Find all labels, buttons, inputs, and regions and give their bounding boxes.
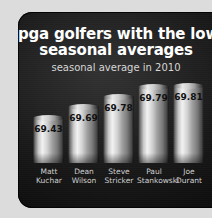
chart-image: pga golfers with the lowest seasonal ave… [0, 0, 212, 218]
plot-area: 69.43 69.69 69.78 [33, 72, 212, 208]
chart-title-line-2: seasonal averages [18, 42, 212, 58]
chart-subtitle: seasonal average in 2010 [18, 62, 212, 74]
chart-panel: pga golfers with the lowest seasonal ave… [18, 12, 212, 208]
category-label-matt-kuchar: Matt Kuchar [32, 167, 66, 185]
bar-foot-shadow [33, 153, 64, 163]
bar-value-label: 69.69 [68, 113, 99, 123]
category-label-line-1: Matt [32, 167, 66, 176]
bar-foot-shadow [68, 153, 99, 163]
category-label-line-2: Durant [172, 176, 206, 185]
category-label-line-2: Stankowski [137, 176, 171, 185]
bar-foot-shadow [103, 153, 134, 163]
bar-paul-stankowski: 69.79 [138, 87, 169, 163]
bar-cap [138, 84, 169, 90]
bar-joe-durant: 69.81 [173, 86, 204, 163]
category-axis: Matt Kuchar Dean Wilson Steve Stricker P… [33, 167, 212, 193]
category-label-paul-stankowski: Paul Stankowski [137, 167, 171, 185]
chart-title: pga golfers with the lowest seasonal ave… [18, 26, 212, 58]
bar-value-label: 69.78 [103, 103, 134, 113]
category-label-line-2: Kuchar [32, 176, 66, 185]
category-label-steve-stricker: Steve Stricker [102, 167, 136, 185]
category-label-line-1: Dean [67, 167, 101, 176]
bar-value-label: 69.81 [173, 92, 204, 102]
bar-value-label: 69.79 [138, 93, 169, 103]
bar-foot-shadow [173, 153, 204, 163]
category-label-dean-wilson: Dean Wilson [67, 167, 101, 185]
bar-cap [103, 94, 134, 100]
category-label-joe-durant: Joe Durant [172, 167, 206, 185]
bar-matt-kuchar: 69.43 [33, 118, 64, 163]
bar-steve-stricker: 69.78 [103, 97, 134, 163]
bar-cap [33, 115, 64, 121]
category-label-line-1: Steve [102, 167, 136, 176]
category-label-line-1: Joe [172, 167, 206, 176]
bar-series: 69.43 69.69 69.78 [33, 72, 212, 163]
bar-cap [68, 104, 99, 110]
bar-dean-wilson: 69.69 [68, 107, 99, 163]
category-label-line-2: Wilson [67, 176, 101, 185]
bar-cap [173, 83, 204, 89]
bar-value-label: 69.43 [33, 124, 64, 134]
category-label-line-2: Stricker [102, 176, 136, 185]
bar-foot-shadow [138, 153, 169, 163]
category-label-line-1: Paul [137, 167, 171, 176]
